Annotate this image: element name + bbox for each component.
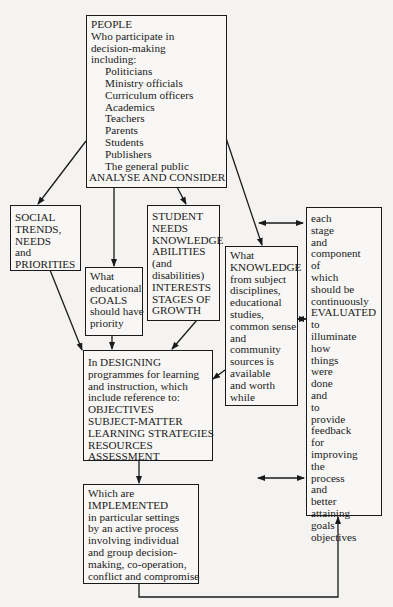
social-trends-box: SOCIAL TRENDS, NEEDS and PRIORITIES [10,205,81,271]
box-line: attaining [311,508,378,520]
box-line: illuminate [311,331,378,343]
participant-item: Curriculum officers [91,90,223,102]
box-line: programmes for learning [88,369,209,381]
box-line: INTERESTS [152,282,216,294]
box-line: to [311,402,378,414]
box-line: should be [311,284,378,296]
people-intro-line: Who participate in [91,31,223,43]
box-line: NEEDS [152,223,216,235]
box-line: and group decision- [88,547,195,559]
box-line: and [311,390,378,402]
box-line: while [230,392,294,404]
people-box: PEOPLE Who participate in decision-makin… [86,15,227,188]
educational-goals-box: What educational GOALS should have prior… [85,267,143,336]
box-line: common sense [230,321,294,333]
box-line: PRIORITIES [15,259,77,271]
evaluated-box: each stage and component of which should… [306,207,382,516]
box-line: KNOWLEDGE [230,262,294,274]
box-line: EVALUATED [311,307,378,319]
box-line: goals [311,520,378,532]
participant-item: Ministry officials [91,78,223,90]
designing-box: In DESIGNING programmes for learning and… [83,350,213,461]
box-line: improving [311,449,378,461]
participant-item: Publishers [91,149,223,161]
box-line: how [311,343,378,355]
box-line: priority [90,318,139,330]
student-needs-box: STUDENT NEEDS KNOWLEDGE ABILITIES (and d… [147,205,220,321]
box-line: educational [90,283,139,295]
box-line: IMPLEMENTED [88,500,195,512]
box-line: GROWTH [152,305,216,317]
knowledge-box: What KNOWLEDGE from subject disciplines,… [225,246,298,406]
box-line: SUBJECT-MATTER [88,416,209,428]
people-action: ANALYSE AND CONSIDER [89,172,223,184]
box-line: LEARNING STRATEGIES [88,428,209,440]
box-line: TRENDS, [15,224,77,236]
implemented-box: Which are IMPLEMENTED in particular sett… [83,484,199,584]
box-line: objectives [311,532,378,544]
box-line: disabilities) [152,270,216,282]
box-line: and worth [230,380,294,392]
box-line: available [230,368,294,380]
box-line: component [311,248,378,260]
box-line: conflict and compromise [88,571,195,583]
box-line: studies, [230,309,294,321]
box-line: the [311,461,378,473]
box-line: making, co-operation, [88,559,195,571]
participant-item: Students [91,137,223,149]
box-line: stage [311,225,378,237]
box-line: which [311,272,378,284]
box-line: ASSESSMENT [88,451,209,463]
